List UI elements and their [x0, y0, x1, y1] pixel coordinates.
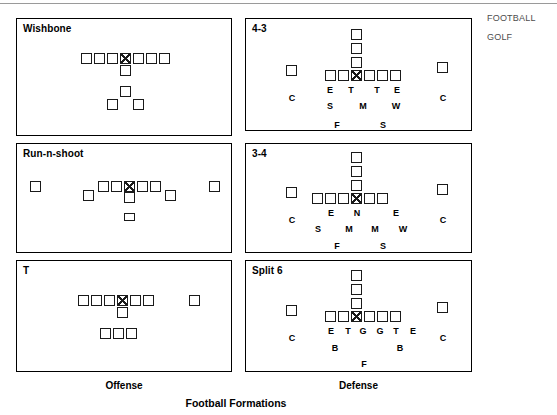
player-wishbone-lineman-2 [94, 53, 105, 64]
split-six-label-cornerback-r: C [436, 333, 450, 343]
four-three-label-tackle-left: T [344, 85, 358, 95]
split-six-label-fullback: F [357, 359, 371, 369]
three-four-label-free-safety: F [330, 241, 344, 251]
category-item-football[interactable]: FOOTBALL [487, 9, 555, 28]
player-wishbone-fullback [120, 86, 131, 97]
player-wishbone-halfback-l [107, 99, 118, 110]
player-t-formation-lineman-4 [130, 295, 141, 306]
player-t-formation-lineman-5 [143, 295, 154, 306]
four-three-label-sam: S [323, 101, 337, 111]
category-item-golf[interactable]: GOLF [487, 28, 555, 47]
player-wishbone-halfback-r [133, 99, 144, 110]
player-split-six-linebacker-m [351, 298, 362, 309]
player-four-three-center [351, 70, 362, 81]
player-split-six-end-right [390, 311, 401, 322]
player-t-formation-back-left [100, 328, 111, 339]
offense-caption: Offense [16, 380, 232, 391]
player-t-formation-lineman-3 [104, 295, 115, 306]
player-run-n-shoot-lineman-2 [111, 181, 122, 192]
split-six-label-guard-left: G [356, 326, 370, 336]
player-wishbone-lineman-1 [81, 53, 92, 64]
player-split-six-cornerback-l [286, 305, 297, 316]
player-run-n-shoot-slot-right [165, 190, 176, 201]
panel-title-t-formation: T [23, 265, 29, 276]
player-split-six-end-left [325, 311, 336, 322]
category-list: FOOTBALLGOLF [487, 9, 555, 47]
player-three-four-linebacker-m [351, 180, 362, 191]
three-four-label-mike-right: M [368, 224, 382, 234]
split-six-label-tackle-left: T [341, 326, 355, 336]
player-four-three-end-right [377, 70, 388, 81]
player-t-formation-lineman-2 [91, 295, 102, 306]
player-run-n-shoot-runningback [124, 213, 135, 221]
player-three-four-safety-mid [351, 166, 362, 177]
player-wishbone-center [120, 53, 131, 64]
player-four-three-end-left [325, 70, 336, 81]
three-four-label-mike-left: M [342, 224, 356, 234]
four-three-label-cornerback-r: C [436, 93, 450, 103]
player-split-six-safety-deep [351, 270, 362, 281]
defense-caption: Defense [245, 380, 472, 391]
panel-title-wishbone: Wishbone [23, 23, 72, 34]
player-t-formation-center [117, 295, 128, 306]
three-four-label-cornerback-l: C [285, 215, 299, 225]
player-four-three-extra-right [390, 70, 401, 81]
player-three-four-lineman-1 [312, 193, 323, 204]
player-three-four-lineman-3 [338, 193, 349, 204]
four-three-label-end-right: E [390, 85, 404, 95]
player-split-six-guard-right [364, 311, 375, 322]
player-three-four-lineman-5 [377, 193, 388, 204]
four-three-label-strong-safety: S [376, 120, 390, 130]
three-four-label-strong-safety: S [376, 241, 390, 251]
split-six-label-end-right: E [406, 326, 420, 336]
four-three-label-end-left: E [323, 85, 337, 95]
player-three-four-cornerback-l [286, 187, 297, 198]
player-t-formation-split-end [189, 295, 200, 306]
three-four-label-end-right: E [389, 208, 403, 218]
player-three-four-lineman-4 [364, 193, 375, 204]
split-six-label-backer-right: B [393, 343, 407, 353]
player-t-formation-lineman-1 [78, 295, 89, 306]
player-run-n-shoot-lineman-3 [137, 181, 148, 192]
player-wishbone-lineman-3 [107, 53, 118, 64]
player-wishbone-lineman-4 [133, 53, 144, 64]
player-run-n-shoot-wideout-right [209, 181, 220, 192]
figure-title: Football Formations [0, 397, 472, 409]
player-wishbone-lineman-5 [146, 53, 157, 64]
player-wishbone-lineman-6 [159, 53, 170, 64]
top-divider-rule [0, 3, 557, 4]
player-three-four-center [351, 193, 362, 204]
player-four-three-tackle-right [364, 70, 375, 81]
formation-panel-wishbone[interactable]: Wishbone [16, 18, 232, 136]
four-three-label-mike: M [356, 101, 370, 111]
player-run-n-shoot-lineman-4 [150, 181, 161, 192]
player-wishbone-quarterback [120, 65, 131, 76]
player-t-formation-back-mid [113, 328, 124, 339]
player-four-three-linebacker-m [351, 57, 362, 68]
player-split-six-tackle-left [338, 311, 349, 322]
four-three-label-tackle-right: T [370, 85, 384, 95]
split-six-label-backer-left: B [328, 343, 342, 353]
panel-title-split-six: Split 6 [252, 265, 283, 276]
player-split-six-cornerback-r [437, 302, 448, 313]
split-six-label-cornerback-l: C [285, 333, 299, 343]
player-split-six-tackle-right [377, 311, 388, 322]
player-split-six-center [351, 311, 362, 322]
player-three-four-cornerback-r [437, 184, 448, 195]
player-four-three-cornerback-r [437, 62, 448, 73]
player-three-four-safety-deep [351, 152, 362, 163]
player-run-n-shoot-wideout-left [30, 181, 41, 192]
three-four-label-end-left: E [324, 208, 338, 218]
four-three-label-free-safety: F [330, 120, 344, 130]
three-four-label-will: W [396, 224, 410, 234]
player-run-n-shoot-lineman-1 [98, 181, 109, 192]
split-six-label-tackle-right: T [389, 326, 403, 336]
three-four-label-cornerback-r: C [436, 215, 450, 225]
player-run-n-shoot-quarterback [124, 192, 135, 203]
player-run-n-shoot-center [124, 181, 135, 192]
split-six-label-guard-right: G [373, 326, 387, 336]
three-four-label-sam: S [311, 224, 325, 234]
player-four-three-safety-mid [351, 43, 362, 54]
three-four-label-nose-tackle: N [350, 208, 364, 218]
four-three-label-cornerback-l: C [285, 93, 299, 103]
